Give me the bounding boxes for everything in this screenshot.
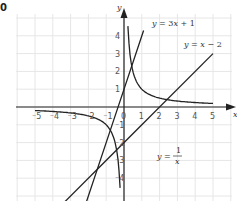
y-tick-label: 3	[115, 50, 120, 59]
x-tick-label: 4	[192, 112, 197, 121]
x-tick-label: ⁻1	[103, 112, 112, 121]
y-tick-label: ⁻4	[115, 174, 124, 183]
y-tick-label: ⁻1	[115, 121, 124, 130]
x-tick-label: 5	[210, 112, 215, 121]
label-1-over-x-denominator: x	[175, 157, 180, 166]
x-tick-label: ⁻3	[68, 112, 77, 121]
y-tick-label: ⁻3	[115, 156, 124, 165]
y-axis-arrow-icon	[121, 8, 128, 18]
x-tick-label: 2	[157, 112, 162, 121]
x-tick-label: 3	[174, 112, 179, 121]
hyperbola-negative-branch	[35, 111, 120, 188]
y-tick-label: 4	[115, 32, 120, 41]
x-tick-label: ⁻2	[85, 112, 94, 121]
function-graph: yx⁻5⁻4⁻3⁻2⁻10123454321⁻1⁻2⁻3⁻4y = 3x + 1…	[0, 0, 237, 201]
axes	[16, 8, 236, 201]
x-tick-label: 0	[121, 112, 126, 121]
x-tick-label: ⁻4	[50, 112, 59, 121]
label-1-over-x-numerator: 1	[176, 146, 181, 155]
labels: yx⁻5⁻4⁻3⁻2⁻10123454321⁻1⁻2⁻3⁻4y = 3x + 1…	[32, 3, 237, 183]
y-tick-label: 1	[115, 85, 120, 94]
x-tick-label: 1	[139, 112, 144, 121]
label-3x-plus-1: y = 3x + 1	[151, 19, 195, 28]
label-1-over-x-prefix: y =	[156, 152, 171, 161]
line-x-minus-2	[49, 54, 213, 201]
x-axis-label: x	[233, 110, 237, 119]
y-tick-label: 2	[115, 67, 120, 76]
label-x-minus-2: y = x − 2	[183, 40, 222, 49]
y-tick-label: ⁻2	[115, 139, 124, 148]
x-tick-label: ⁻5	[32, 112, 41, 121]
y-axis-label: y	[116, 3, 122, 12]
